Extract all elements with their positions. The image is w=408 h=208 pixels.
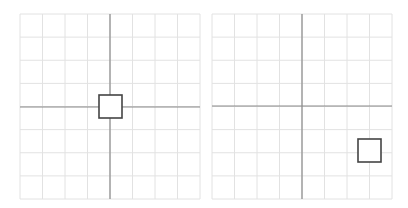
left-grid-panel bbox=[0, 0, 204, 208]
right-grid-panel bbox=[204, 0, 408, 208]
square-shape bbox=[99, 95, 122, 118]
left-coordinate-grid bbox=[0, 0, 204, 208]
right-coordinate-grid bbox=[204, 0, 408, 208]
square-shape bbox=[358, 139, 381, 162]
